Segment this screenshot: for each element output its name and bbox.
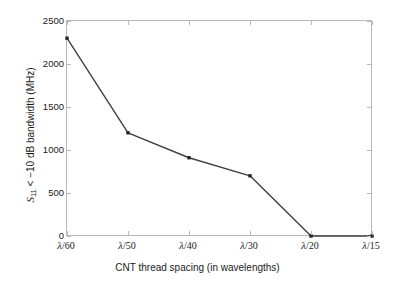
lambda-fraction: /15: [367, 240, 380, 251]
y-tick-mark: [367, 107, 371, 108]
x-tick-label: λ/30: [240, 240, 257, 251]
data-point: [248, 174, 251, 177]
y-tick-mark: [367, 21, 371, 22]
x-tick-mark: [372, 21, 373, 25]
x-tick-mark: [372, 231, 373, 235]
y-tick-mark: [67, 236, 71, 237]
y-axis-symbol: S: [24, 197, 36, 203]
x-tick-mark: [67, 21, 68, 25]
data-line: [67, 38, 372, 236]
x-tick-label: λ/20: [301, 240, 318, 251]
y-tick-mark: [67, 150, 71, 151]
data-markers: [65, 37, 373, 238]
x-tick-mark: [311, 231, 312, 235]
y-axis-subscript: 11: [29, 189, 38, 197]
y-tick-mark: [67, 193, 71, 194]
y-tick-mark: [367, 236, 371, 237]
y-tick-label: 1500: [43, 101, 64, 112]
y-tick-mark: [367, 64, 371, 65]
x-tick-mark: [189, 21, 190, 25]
chart-figure: 05001000150020002500 S11 < −10 dB bandwi…: [0, 0, 395, 295]
x-tick-mark: [128, 231, 129, 235]
y-tick-label: 2500: [43, 15, 64, 26]
plot-area: [66, 20, 372, 236]
x-tick-label: λ/60: [57, 240, 74, 251]
y-axis-title: S11 < −10 dB bandwidth (MHz): [24, 27, 38, 243]
x-tick-label: λ/40: [179, 240, 196, 251]
x-tick-mark: [250, 231, 251, 235]
lambda-fraction: /60: [62, 240, 75, 251]
y-tick-mark: [67, 107, 71, 108]
data-point: [126, 131, 129, 134]
x-tick-mark: [311, 21, 312, 25]
data-point: [65, 37, 68, 40]
data-point: [187, 156, 190, 159]
y-tick-label: 1000: [43, 144, 64, 155]
x-tick-label: λ/50: [118, 240, 135, 251]
x-tick-mark: [67, 231, 68, 235]
x-axis-title: CNT thread spacing (in wavelengths): [0, 262, 395, 273]
y-tick-label: 2000: [43, 58, 64, 69]
data-series-svg: [67, 21, 373, 237]
lambda-fraction: /30: [245, 240, 258, 251]
y-tick-mark: [67, 64, 71, 65]
x-tick-mark: [250, 21, 251, 25]
lambda-fraction: /50: [123, 240, 136, 251]
y-axis-title-rest: < −10 dB bandwidth (MHz): [25, 67, 36, 189]
x-tick-mark: [189, 231, 190, 235]
x-tick-label: λ/15: [362, 240, 379, 251]
y-tick-mark: [367, 150, 371, 151]
lambda-fraction: /40: [184, 240, 197, 251]
y-tick-label: 500: [48, 187, 64, 198]
y-tick-mark: [367, 193, 371, 194]
lambda-fraction: /20: [306, 240, 319, 251]
y-tick-label: 0: [59, 230, 64, 241]
x-tick-mark: [128, 21, 129, 25]
